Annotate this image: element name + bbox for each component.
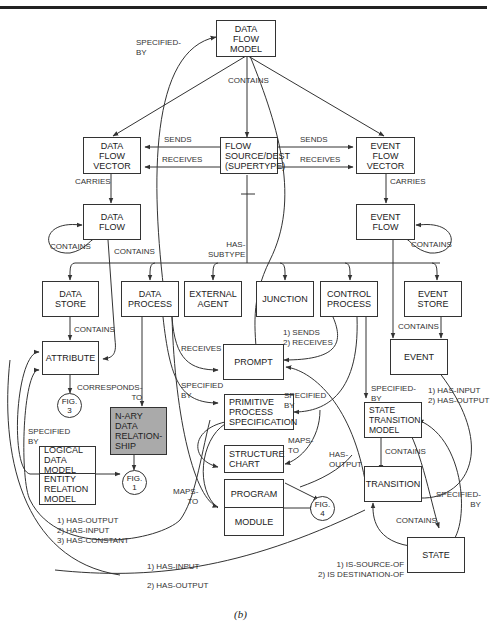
node-data-flow-model: DATA FLOW MODEL <box>216 20 276 57</box>
node-fig1: FIG. 1 <box>122 470 147 495</box>
label-has-output: HAS- OUTPUT <box>329 450 362 470</box>
node-data-flow: DATA FLOW <box>83 204 141 240</box>
label-specified-by-stm: SPECIFIED- BY <box>371 384 416 404</box>
node-data-flow-vector: DATA FLOW VECTOR <box>83 137 141 174</box>
label-specified-by-pps-right: SPECIFIED BY <box>284 391 326 411</box>
node-state: STATE <box>407 537 465 573</box>
label-has-input-bottom: 1) HAS-INPUT <box>147 562 199 572</box>
label-contains-top: CONTAINS <box>228 76 269 86</box>
node-nary-data-relationship: N-ARY DATA RELATION- SHIP <box>110 407 167 455</box>
node-event: EVENT <box>390 339 448 375</box>
node-external-agent: EXTERNAL AGENT <box>184 281 242 317</box>
node-data-store: DATA STORE <box>42 281 99 317</box>
label-specified-by-top: SPECIFIED- BY <box>136 38 181 58</box>
node-module: MODULE <box>224 507 284 536</box>
label-contains-stm-state: CONTAINS <box>396 516 437 526</box>
label-contains-data-store-attribute: CONTAINS <box>74 325 115 335</box>
label-contains-stm-transition: CONTAINS <box>385 447 426 457</box>
label-receives-left: RECEIVES <box>162 155 202 165</box>
label-sends-right: SENDS <box>300 135 328 145</box>
node-state-transition-model: STATE TRANSITION MODEL <box>364 402 422 438</box>
figure-caption: (b) <box>234 608 247 620</box>
node-event-store: EVENT STORE <box>404 281 462 317</box>
label-carries-right: CARRIES <box>390 177 426 187</box>
label-has-subtype: HAS- SUBTYPE <box>208 240 245 260</box>
label-has-input-output-event: 1) HAS-INPUT 2) HAS-OUTPUT <box>428 386 489 406</box>
node-flow-source-dest: FLOW SOURCE/DEST (SUPERTYPE) <box>220 137 278 174</box>
label-receives-right: RECEIVES <box>300 155 340 165</box>
node-logical-data-model: LOGICAL DATA MODEL <box>39 446 96 474</box>
node-program: PROGRAM <box>224 479 284 508</box>
node-fig4: FIG. 4 <box>310 496 335 521</box>
node-event-flow: EVENT FLOW <box>356 204 415 240</box>
label-specified-by-ldm: SPECIFIED BY <box>28 427 70 447</box>
label-contains-event-store-event: CONTAINS <box>398 322 439 332</box>
node-junction: JUNCTION <box>256 281 314 317</box>
label-maps-to-program-module: MAPS- TO <box>173 487 198 507</box>
label-has-output-input-constant: 1) HAS-OUTPUT 2) HAS-INPUT 3) HAS-CONSTA… <box>57 516 129 546</box>
label-corresponds-to: CORRESPONDS- TO <box>77 383 142 403</box>
label-source-destination: 1) IS-SOURCE-OF 2) IS DESTINATION-OF <box>318 560 404 580</box>
label-specified-by-state: SPECIFIED- BY <box>436 490 481 510</box>
node-prompt: PROMPT <box>223 344 284 380</box>
node-entity-relation-model: ENTITY RELATION MODEL <box>39 473 96 505</box>
label-maps-to-structure-chart: MAPS- TO <box>288 436 313 456</box>
label-receives-prompt: RECEIVES <box>181 344 221 354</box>
label-contains-data-flow-attribute: CONTAINS <box>114 247 155 257</box>
label-specified-by-pps-left: SPECIFIED BY <box>181 381 223 401</box>
label-sends-receives: 1) SENDS 2) RECEIVES <box>283 328 333 348</box>
node-event-flow-vector: EVENT FLOW VECTOR <box>356 137 415 174</box>
label-carries-left: CARRIES <box>75 177 111 187</box>
label-sends-left: SENDS <box>164 135 192 145</box>
label-contains-data-flow-self: CONTAINS <box>50 242 91 252</box>
node-data-process: DATA PROCESS <box>121 281 179 317</box>
node-control-process: CONTROL PROCESS <box>320 281 378 317</box>
label-contains-event-flow-self: CONTAINS <box>411 240 452 250</box>
node-structure-chart: STRUCTURE CHART <box>224 445 284 473</box>
node-transition: TRANSITION <box>364 466 422 502</box>
node-attribute: ATTRIBUTE <box>42 341 99 375</box>
label-has-output-bottom: 2) HAS-OUTPUT <box>147 581 208 591</box>
